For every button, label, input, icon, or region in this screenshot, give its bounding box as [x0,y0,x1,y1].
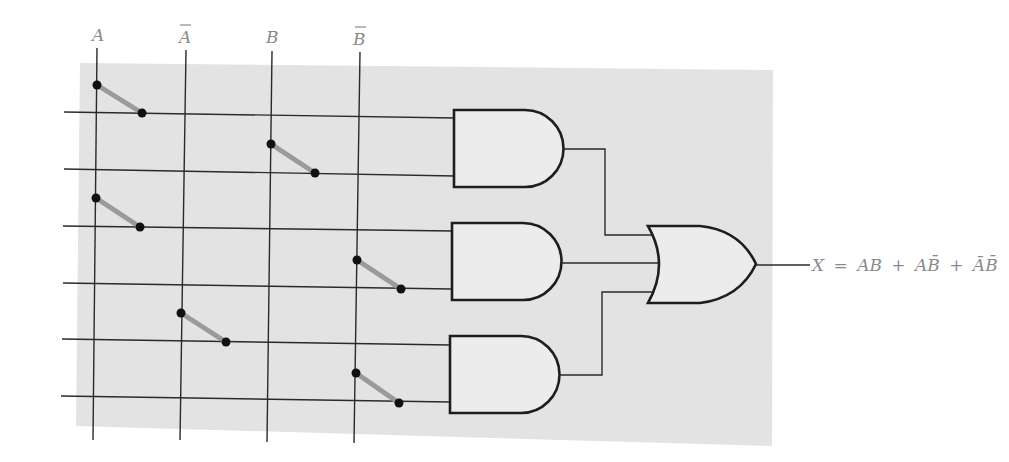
output-lhs: X [810,255,825,275]
switch-node [136,223,145,232]
switch-node [138,109,147,118]
switch-node [222,338,231,347]
switch-node [267,140,276,149]
term-ab-bar: AB̄ [913,254,940,275]
svg-text:X = AB +: X = AB + AB̄ + ĀB̄ [810,254,998,275]
switch-node [93,81,102,90]
label-b-bar: B [352,27,366,49]
switch-node [177,309,186,318]
and-or-array-diagram: A A B B [0,0,1009,462]
term-ab: AB [855,255,882,275]
switch-node [311,169,320,178]
output-expression: X = AB + AB̄ + ĀB̄ [810,254,998,275]
switch-node [353,256,362,265]
svg-text:A: A [177,27,191,47]
switch-node [92,194,101,203]
switch-node [397,285,406,294]
label-b: B [265,27,279,47]
switch-node [352,369,361,378]
and-gate-2 [452,223,562,300]
label-a: A [90,25,104,45]
svg-text:B: B [352,29,366,49]
term-a-bar-b-bar: ĀB̄ [971,254,998,275]
label-a-bar: A [177,25,191,47]
equals-sign: = [834,255,848,275]
and-gate-3 [450,336,560,413]
and-gate-1 [454,110,564,187]
and-gates [450,110,564,413]
switch-node [395,399,404,408]
input-labels: A A B B [90,25,366,49]
